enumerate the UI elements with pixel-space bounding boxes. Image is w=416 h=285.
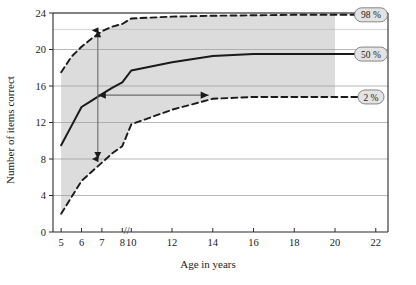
x-tick-label: 12 [167, 237, 178, 248]
y-tick-label: 24 [36, 8, 47, 19]
y-tick-label: 16 [36, 81, 47, 92]
axis-break-marker: // [124, 225, 130, 236]
pill-label-text: 98 % [361, 10, 381, 20]
y-tick-label: 12 [36, 117, 47, 128]
x-tick-label: 7 [99, 237, 104, 248]
y-tick-label: 0 [41, 227, 46, 238]
x-tick-label: 16 [248, 237, 259, 248]
x-axis-title: Age in years [180, 258, 236, 270]
pill-label-text: 50 % [361, 50, 381, 60]
x-tick-label: 8 [120, 237, 125, 248]
x-tick-label: 14 [208, 237, 219, 248]
chart-canvas: 04812162024 567810121416182022// 98 %50 … [0, 0, 416, 285]
x-tick-label: 10 [126, 237, 137, 248]
y-tick-label: 8 [41, 154, 46, 165]
percentile-growth-chart: 04812162024 567810121416182022// 98 %50 … [0, 0, 416, 285]
x-tick-label: 5 [59, 237, 64, 248]
x-tick-label: 20 [330, 237, 341, 248]
pill-label-text: 2 % [363, 93, 378, 103]
x-tick-label: 18 [289, 237, 300, 248]
x-tick-label: 22 [371, 237, 382, 248]
x-tick-label: 6 [79, 237, 84, 248]
y-axis-title: Number of items correct [4, 76, 16, 184]
y-tick-label: 4 [41, 190, 47, 201]
y-tick-label: 20 [36, 44, 47, 55]
